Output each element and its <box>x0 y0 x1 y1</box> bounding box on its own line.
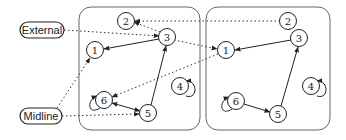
svg-text:4: 4 <box>177 81 183 92</box>
graph-diagram: External Midline 1 2 3 4 5 6 <box>0 0 346 140</box>
node-left-6: 6 <box>96 92 113 109</box>
node-left-5: 5 <box>140 105 157 122</box>
external-box: External <box>20 22 64 38</box>
svg-text:3: 3 <box>164 32 170 43</box>
solid-edges <box>104 39 298 112</box>
svg-text:6: 6 <box>101 95 107 106</box>
edge-left3-left2 <box>134 22 160 32</box>
edge-left6-left5 <box>112 103 140 111</box>
node-left-4: 4 <box>172 78 189 95</box>
edge-left3-right1 <box>174 40 217 49</box>
svg-text:2: 2 <box>123 16 129 27</box>
node-right-4: 4 <box>303 78 320 95</box>
midline-box: Midline <box>20 108 62 124</box>
edge-midline-left5 <box>62 114 139 116</box>
svg-text:4: 4 <box>308 81 314 92</box>
edge-right3-right1 <box>235 40 291 50</box>
node-right-5: 5 <box>270 106 287 123</box>
edge-left5-left3 <box>151 46 166 105</box>
edge-right6-right5 <box>244 104 270 112</box>
midline-label: Midline <box>24 110 59 122</box>
node-left-1: 1 <box>87 42 104 59</box>
svg-text:1: 1 <box>223 45 229 56</box>
svg-text:6: 6 <box>233 96 239 107</box>
node-right-6: 6 <box>228 93 245 110</box>
edge-right1-left6 <box>112 54 218 97</box>
node-right-2: 2 <box>280 13 297 30</box>
edge-external-left3 <box>64 30 159 36</box>
svg-text:5: 5 <box>275 109 281 120</box>
edge-left3-left1 <box>104 39 159 49</box>
node-left-2: 2 <box>118 13 135 30</box>
node-right-3: 3 <box>291 30 308 47</box>
edge-midline-left1 <box>57 58 90 108</box>
node-left-3: 3 <box>159 29 176 46</box>
left-nodes: 1 2 3 4 5 6 <box>87 13 189 122</box>
right-nodes: 1 2 3 4 5 6 <box>218 13 320 123</box>
svg-text:1: 1 <box>92 45 98 56</box>
svg-text:5: 5 <box>145 108 151 119</box>
node-right-1: 1 <box>218 42 235 59</box>
svg-text:3: 3 <box>296 33 302 44</box>
edge-right5-right3 <box>281 47 298 106</box>
svg-text:2: 2 <box>285 16 291 27</box>
external-label: External <box>22 24 62 36</box>
